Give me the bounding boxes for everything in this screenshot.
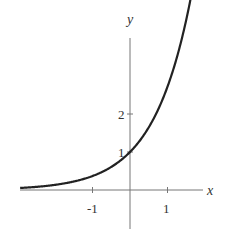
y-tick-label-2: 2 bbox=[118, 107, 125, 122]
x-tick-label-1: 1 bbox=[163, 201, 170, 216]
x-axis-label: x bbox=[206, 183, 214, 198]
exponential-graph: x y -1 1 1 2 bbox=[0, 0, 226, 236]
exponential-curve bbox=[20, 0, 203, 188]
x-tick-label-neg1: -1 bbox=[87, 201, 98, 216]
y-axis-label: y bbox=[125, 12, 134, 27]
